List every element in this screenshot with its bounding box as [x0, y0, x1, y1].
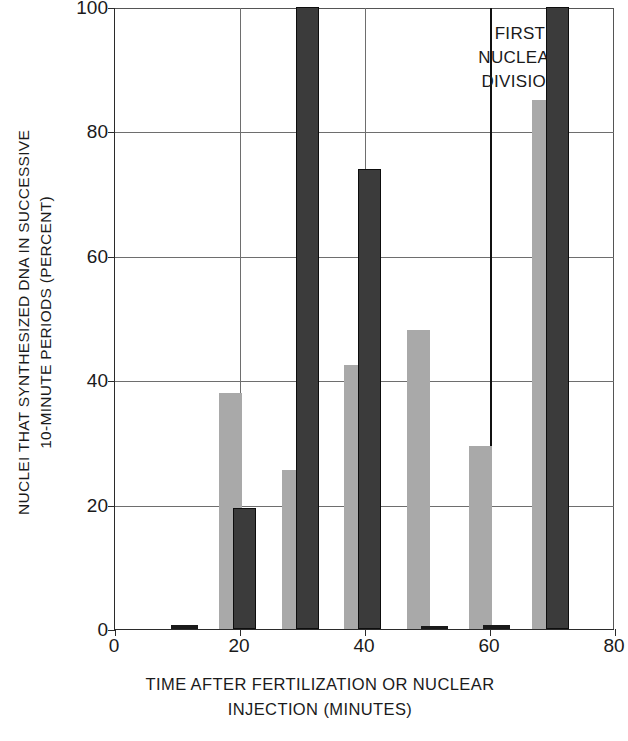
bar-dark-30min	[296, 7, 319, 629]
y-tick-label-100: 100	[70, 0, 108, 17]
x-tick-label-60: 60	[478, 636, 499, 655]
x-tick-label-0: 0	[109, 636, 120, 655]
y-tick-label-0: 0	[70, 620, 108, 639]
y-tick-mark-60	[108, 257, 115, 258]
x-tick-label-80: 80	[603, 636, 624, 655]
bar-light-60min	[469, 446, 492, 629]
y-tick-label-40: 40	[70, 371, 108, 390]
bar-dark-20min	[233, 508, 256, 629]
x-tick-label-40: 40	[353, 636, 374, 655]
y-axis-title-line-1: NUCLEI THAT SYNTHESIZED DNA IN SUCCESSIV…	[14, 130, 36, 515]
y-tick-label-60: 60	[70, 247, 108, 266]
plot-area: FIRST NUCLEAR DIVISION	[114, 8, 614, 630]
bar-dark-40min	[358, 169, 381, 629]
bar-dark-70min	[546, 7, 569, 629]
bar-chart-figure: NUCLEI THAT SYNTHESIZED DNA IN SUCCESSIV…	[0, 0, 628, 741]
bar-dark-60min	[483, 625, 510, 629]
y-tick-mark-80	[108, 132, 115, 133]
annotation-first-nuclear-division: FIRST NUCLEAR DIVISION	[445, 22, 595, 94]
annotation-line-2: NUCLEAR	[445, 46, 595, 70]
y-tick-label-80: 80	[70, 122, 108, 141]
bar-dark-50min	[421, 626, 448, 629]
x-axis-tick-labels: 020406080	[114, 636, 614, 666]
x-axis-title: TIME AFTER FERTILIZATION OR NUCLEAR INJE…	[60, 672, 580, 722]
plot-frame-right	[613, 8, 614, 629]
x-axis-title-line-1: TIME AFTER FERTILIZATION OR NUCLEAR	[60, 672, 580, 697]
y-tick-mark-0	[108, 630, 115, 631]
x-axis-title-line-2: INJECTION (MINUTES)	[60, 697, 580, 722]
annotation-line-1: FIRST	[445, 22, 595, 46]
y-tick-mark-100	[108, 8, 115, 9]
y-axis-title-line-2: 10-MINUTE PERIODS (PERCENT)	[36, 130, 58, 515]
y-tick-mark-40	[108, 381, 115, 382]
annotation-line-3: DIVISION	[445, 70, 595, 94]
y-tick-label-20: 20	[70, 496, 108, 515]
x-tick-label-20: 20	[228, 636, 249, 655]
y-tick-mark-20	[108, 506, 115, 507]
bar-dark-10min	[171, 625, 198, 629]
bar-light-50min	[407, 330, 430, 629]
y-axis-tick-labels: 100806040200	[62, 0, 108, 645]
